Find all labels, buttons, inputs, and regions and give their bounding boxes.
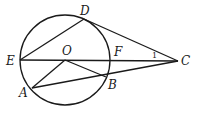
segment-ed <box>20 19 84 60</box>
geometry-diagram: D E O F C B A 1 <box>0 0 198 113</box>
label-b: B <box>107 78 117 92</box>
segment-ac <box>32 61 178 88</box>
label-o: O <box>62 44 72 58</box>
segment-ec <box>20 60 178 61</box>
label-e: E <box>5 54 15 68</box>
label-c: C <box>181 54 190 68</box>
segment-oa <box>32 60 65 88</box>
label-d: D <box>79 4 90 18</box>
angle-label-1: 1 <box>152 51 157 60</box>
label-f: F <box>113 45 123 59</box>
label-a: A <box>18 86 28 100</box>
segment-ob <box>65 60 106 77</box>
segment-dc <box>84 19 178 61</box>
